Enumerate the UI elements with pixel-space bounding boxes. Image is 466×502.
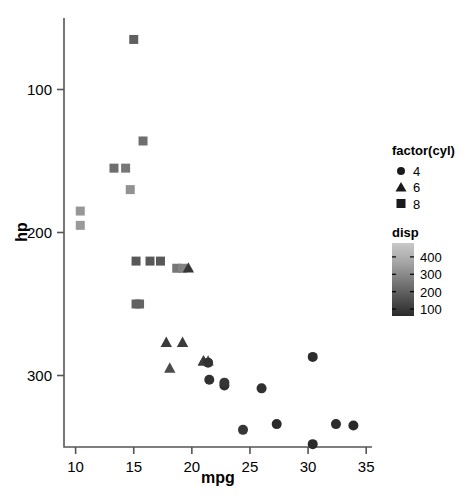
data-point-circle bbox=[204, 375, 214, 385]
y-axis-title: hp bbox=[13, 222, 30, 242]
x-axis-title: mpg bbox=[201, 469, 235, 486]
data-point-square bbox=[126, 185, 135, 194]
legend-square-icon bbox=[397, 199, 406, 208]
data-point-circle bbox=[257, 383, 267, 393]
data-point-circle bbox=[331, 419, 341, 429]
data-point-circle bbox=[308, 439, 318, 449]
data-point-square bbox=[132, 300, 141, 309]
data-point-circle bbox=[348, 421, 358, 431]
chart-canvas: 300200100 101520253035 mpg hp factor(cyl… bbox=[0, 0, 466, 502]
y-tick-label: 300 bbox=[27, 367, 52, 384]
data-point-square bbox=[146, 257, 155, 266]
data-point-square bbox=[76, 207, 85, 216]
data-point-square bbox=[109, 164, 118, 173]
data-point-circle bbox=[308, 352, 318, 362]
colorbar-tick-label: 400 bbox=[420, 250, 442, 265]
data-point-square bbox=[132, 257, 141, 266]
colorbar-tick-label: 200 bbox=[420, 285, 442, 300]
colorbar-gradient bbox=[392, 243, 414, 316]
data-point-square bbox=[156, 257, 165, 266]
scatter-plot-figure: 300200100 101520253035 mpg hp factor(cyl… bbox=[0, 0, 466, 502]
data-point-circle bbox=[203, 358, 213, 368]
x-tick-label: 35 bbox=[358, 458, 375, 475]
x-tick-label: 15 bbox=[125, 458, 142, 475]
legend-shape-label-6: 6 bbox=[413, 180, 420, 195]
x-tick-label: 25 bbox=[242, 458, 259, 475]
legend-colorbar-title: disp bbox=[392, 225, 419, 240]
x-tick-label: 10 bbox=[67, 458, 84, 475]
x-tick-label: 20 bbox=[184, 458, 201, 475]
x-tick-label: 30 bbox=[300, 458, 317, 475]
data-point-square bbox=[76, 221, 85, 230]
colorbar-tick-label: 100 bbox=[420, 302, 442, 317]
legend-shape-title: factor(cyl) bbox=[392, 143, 455, 158]
data-point-square bbox=[121, 164, 130, 173]
data-point-square bbox=[129, 35, 138, 44]
legend-circle-icon bbox=[397, 167, 405, 175]
y-tick-label: 200 bbox=[27, 224, 52, 241]
data-point-circle bbox=[272, 419, 282, 429]
data-point-circle bbox=[219, 378, 229, 388]
legend-shape-label-4: 4 bbox=[413, 164, 420, 179]
data-point-square bbox=[139, 136, 148, 145]
legend-shape-label-8: 8 bbox=[413, 197, 420, 212]
data-point-circle bbox=[238, 425, 248, 435]
colorbar-tick-label: 300 bbox=[420, 267, 442, 282]
y-tick-label: 100 bbox=[27, 81, 52, 98]
